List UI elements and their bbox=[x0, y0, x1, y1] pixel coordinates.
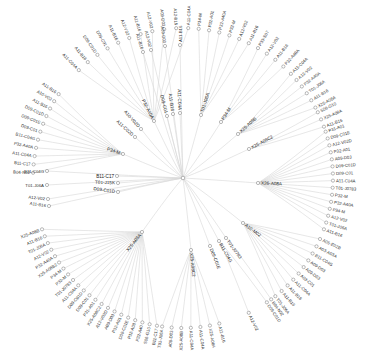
node-circle-icon[interactable] bbox=[151, 30, 154, 33]
node-circle-icon[interactable] bbox=[328, 207, 331, 210]
node-circle-icon[interactable] bbox=[280, 289, 283, 292]
node-circle-icon[interactable] bbox=[302, 266, 305, 269]
node-circle-icon[interactable] bbox=[241, 221, 244, 224]
leaf-node[interactable]: P32-A01 bbox=[207, 10, 215, 32]
root-node[interactable] bbox=[181, 176, 185, 180]
node-circle-icon[interactable] bbox=[300, 85, 303, 88]
leaf-node[interactable]: A11-B16 bbox=[218, 322, 227, 344]
node-circle-icon[interactable] bbox=[170, 326, 173, 329]
node-circle-icon[interactable] bbox=[218, 322, 221, 325]
node-circle-icon[interactable] bbox=[43, 235, 46, 238]
node-circle-icon[interactable] bbox=[128, 36, 131, 39]
node-circle-icon[interactable] bbox=[330, 158, 333, 161]
node-circle-icon[interactable] bbox=[180, 326, 183, 329]
node-circle-icon[interactable] bbox=[106, 47, 109, 50]
node-circle-icon[interactable] bbox=[322, 228, 325, 231]
node-circle-icon[interactable] bbox=[292, 278, 295, 281]
node-circle-icon[interactable] bbox=[82, 289, 85, 292]
node-circle-icon[interactable] bbox=[270, 298, 273, 301]
node-circle-icon[interactable] bbox=[178, 43, 181, 46]
node-circle-icon[interactable] bbox=[141, 50, 144, 53]
node-circle-icon[interactable] bbox=[305, 92, 308, 95]
node-circle-icon[interactable] bbox=[62, 267, 65, 270]
inner-node[interactable]: B11-C17 bbox=[96, 174, 118, 179]
node-circle-icon[interactable] bbox=[77, 284, 80, 287]
leaf-node[interactable]: B11-C04G bbox=[15, 131, 39, 141]
inner-node[interactable]: X26-A08A bbox=[256, 181, 283, 187]
node-circle-icon[interactable] bbox=[331, 186, 334, 189]
node-circle-icon[interactable] bbox=[33, 154, 36, 157]
node-circle-icon[interactable] bbox=[326, 137, 329, 140]
leaf-node[interactable]: A11-C04A bbox=[198, 325, 205, 349]
node-circle-icon[interactable] bbox=[224, 236, 227, 239]
node-circle-icon[interactable] bbox=[45, 169, 48, 172]
node-circle-icon[interactable] bbox=[36, 138, 39, 141]
leaf-node[interactable]: A11-C04A bbox=[189, 326, 195, 350]
leaf-node[interactable]: A12-V02 bbox=[238, 19, 250, 40]
node-circle-icon[interactable] bbox=[53, 255, 56, 258]
leaf-node[interactable]: B11-C17 bbox=[14, 160, 35, 167]
node-circle-icon[interactable] bbox=[208, 244, 211, 247]
leaf-node[interactable]: A09-D03 bbox=[330, 154, 352, 161]
leaf-node[interactable]: P32-M bbox=[330, 193, 348, 199]
node-circle-icon[interactable] bbox=[217, 239, 220, 242]
inner-node[interactable]: X25-A08B bbox=[236, 116, 257, 135]
node-circle-icon[interactable] bbox=[330, 193, 333, 196]
leaf-node[interactable]: A09-D03 bbox=[168, 326, 174, 348]
node-circle-icon[interactable] bbox=[319, 118, 322, 121]
inner-node[interactable]: D09-C01D bbox=[93, 186, 119, 194]
node-circle-icon[interactable] bbox=[236, 132, 239, 135]
leaf-node[interactable]: S06-G10 bbox=[143, 323, 152, 345]
leaf-node[interactable]: A12-V02 bbox=[144, 30, 153, 51]
leaf-node[interactable]: X25-A08B bbox=[178, 326, 183, 350]
node-circle-icon[interactable] bbox=[314, 106, 317, 109]
node-circle-icon[interactable] bbox=[247, 311, 250, 314]
node-circle-icon[interactable] bbox=[57, 261, 60, 264]
node-circle-icon[interactable] bbox=[116, 181, 119, 184]
node-circle-icon[interactable] bbox=[247, 42, 250, 45]
leaf-node[interactable]: A11-C04A bbox=[186, 5, 192, 29]
node-circle-icon[interactable] bbox=[208, 324, 211, 327]
node-circle-icon[interactable] bbox=[165, 114, 168, 117]
leaf-node[interactable]: A12-V02 bbox=[146, 11, 154, 32]
leaf-node[interactable]: D09-C01 bbox=[331, 170, 353, 176]
leaf-node[interactable]: T01-J06A bbox=[25, 183, 48, 188]
node-circle-icon[interactable] bbox=[45, 114, 48, 117]
node-circle-icon[interactable] bbox=[307, 259, 310, 262]
node-circle-icon[interactable] bbox=[289, 72, 292, 75]
inner-node[interactable]: X25-A08C2 bbox=[189, 248, 197, 277]
node-circle-icon[interactable] bbox=[39, 130, 42, 133]
leaf-node[interactable]: B11-C04G bbox=[24, 169, 49, 174]
node-circle-icon[interactable] bbox=[219, 120, 222, 123]
node-circle-icon[interactable] bbox=[329, 200, 332, 203]
node-circle-icon[interactable] bbox=[155, 324, 158, 327]
leaf-node[interactable]: A11-B16 bbox=[178, 25, 183, 47]
node-circle-icon[interactable] bbox=[133, 135, 136, 138]
leaf-node[interactable]: A11-C04A bbox=[61, 52, 80, 72]
leaf-node[interactable]: P32-A40A bbox=[13, 141, 37, 150]
node-circle-icon[interactable] bbox=[96, 53, 99, 56]
node-circle-icon[interactable] bbox=[161, 325, 164, 328]
inner-node[interactable]: X25-A08C2 bbox=[247, 134, 274, 151]
node-circle-icon[interactable] bbox=[274, 58, 277, 61]
inner-node[interactable]: D09-C01E bbox=[208, 244, 221, 269]
leaf-node[interactable]: A11-C04A bbox=[12, 150, 36, 158]
node-circle-icon[interactable] bbox=[318, 237, 321, 240]
node-circle-icon[interactable] bbox=[282, 65, 285, 68]
node-circle-icon[interactable] bbox=[315, 245, 318, 248]
leaf-node[interactable]: A11-B16 bbox=[29, 201, 50, 208]
node-circle-icon[interactable] bbox=[100, 302, 103, 305]
node-circle-icon[interactable] bbox=[286, 284, 289, 287]
node-circle-icon[interactable] bbox=[197, 27, 200, 30]
node-circle-icon[interactable] bbox=[47, 204, 50, 207]
node-circle-icon[interactable] bbox=[329, 151, 332, 154]
node-circle-icon[interactable] bbox=[256, 46, 259, 49]
node-circle-icon[interactable] bbox=[57, 93, 60, 96]
node-circle-icon[interactable] bbox=[228, 34, 231, 37]
node-circle-icon[interactable] bbox=[207, 29, 210, 32]
node-circle-icon[interactable] bbox=[127, 316, 130, 319]
node-circle-icon[interactable] bbox=[53, 100, 56, 103]
node-circle-icon[interactable] bbox=[324, 130, 327, 133]
node-circle-icon[interactable] bbox=[106, 306, 109, 309]
node-circle-icon[interactable] bbox=[238, 37, 241, 40]
